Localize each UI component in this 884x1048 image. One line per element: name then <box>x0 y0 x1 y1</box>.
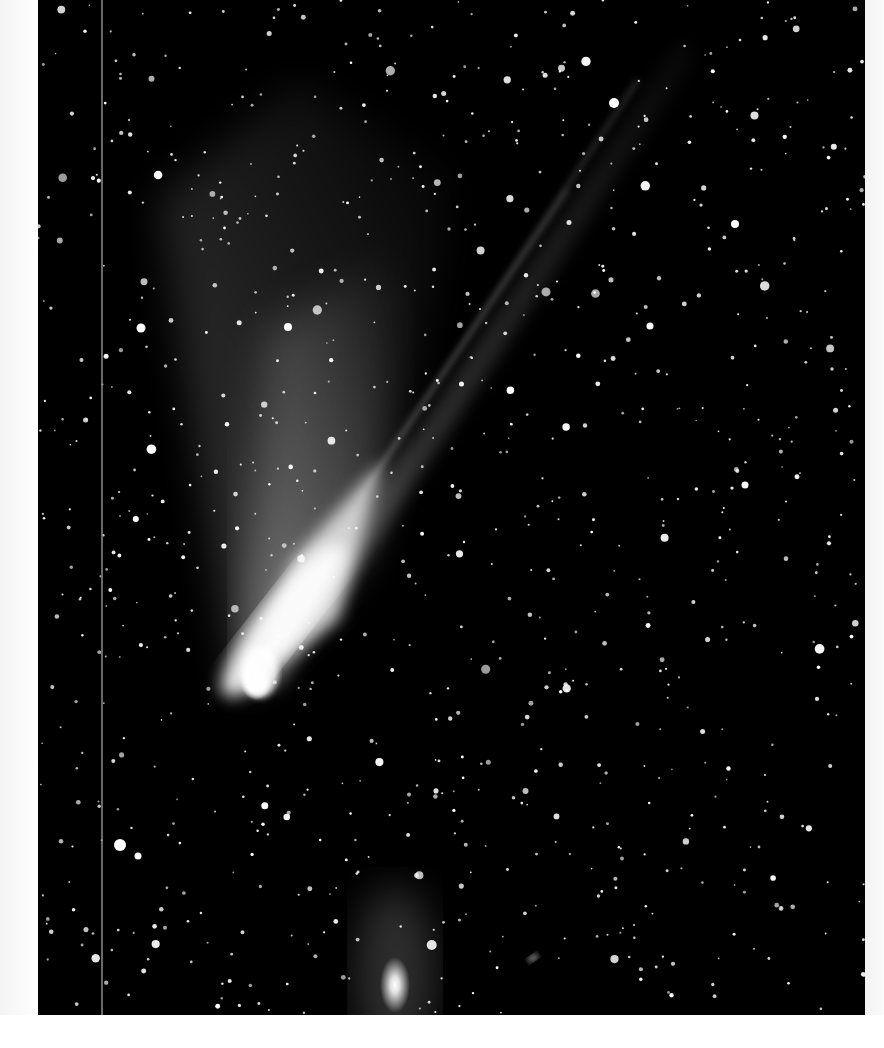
galaxy <box>355 885 435 1015</box>
scan-crease-line <box>101 0 103 1048</box>
comet-photograph <box>38 0 865 1015</box>
page-margin-right <box>865 0 884 1048</box>
page-margin-bottom <box>0 1015 884 1048</box>
page-margin-left <box>0 0 38 1048</box>
small-galaxy <box>526 952 539 964</box>
night-sky <box>38 0 865 1015</box>
star-field <box>38 0 865 1014</box>
